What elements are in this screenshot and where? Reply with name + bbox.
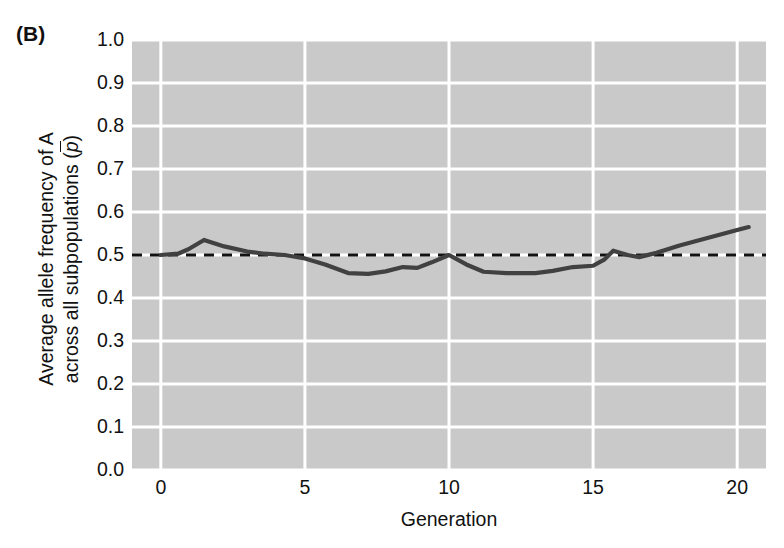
y-tick-label: 0.6 [62, 202, 124, 222]
y-tick-label: 1.0 [62, 30, 124, 50]
figure-panel-b: (B) Average allele frequency of A across… [0, 0, 784, 548]
y-axis-title-line1: Average allele frequency of A [34, 132, 59, 385]
y-tick-label: 0.4 [62, 288, 124, 308]
x-tick-label: 15 [563, 478, 623, 498]
plot-svg [132, 40, 766, 470]
y-tick-label: 0.3 [62, 331, 124, 351]
y-tick-label: 0.5 [62, 245, 124, 265]
y-tick-label: 0.7 [62, 159, 124, 179]
x-tick-label: 20 [707, 478, 767, 498]
panel-label: (B) [16, 22, 45, 46]
y-tick-label: 0.1 [62, 417, 124, 437]
y-tick-label: 0.9 [62, 73, 124, 93]
x-tick-label: 5 [275, 478, 335, 498]
y-tick-label: 0.8 [62, 116, 124, 136]
y-axis-tick-labels: 0.00.10.20.30.40.50.60.70.80.91.0 [62, 40, 124, 470]
y-tick-label: 0.0 [62, 460, 124, 480]
x-axis-tick-labels: 05101520 [0, 478, 784, 504]
x-tick-label: 10 [419, 478, 479, 498]
x-axis-title: Generation [132, 508, 766, 531]
plot-area [132, 40, 766, 470]
data-series-line [161, 227, 749, 274]
x-tick-label: 0 [131, 478, 191, 498]
y-tick-label: 0.2 [62, 374, 124, 394]
